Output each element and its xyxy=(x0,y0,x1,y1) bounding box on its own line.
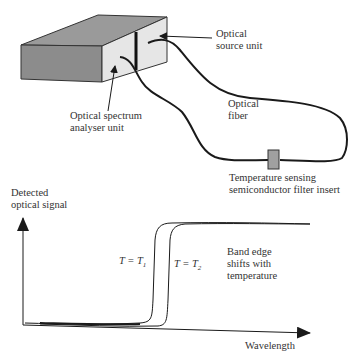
annotation-line3: temperature xyxy=(227,270,277,282)
fiber-label-line2: fiber xyxy=(228,110,259,122)
filter-label-line2: semiconductor filter insert xyxy=(229,184,340,196)
curve-t1-text: T = T xyxy=(119,255,143,266)
analyser-label-line2: analyser unit xyxy=(70,122,142,134)
annotation-line2: shifts with xyxy=(227,258,277,270)
ylabel-line2: optical signal xyxy=(11,199,67,211)
x-axis-label: Wavelength xyxy=(245,340,295,352)
instrument-box xyxy=(21,15,167,82)
filter-insert xyxy=(268,150,279,169)
annotation-line1: Band edge xyxy=(227,246,277,258)
filter-insert-label: Temperature sensing semiconductor filter… xyxy=(229,172,340,196)
curve-t1-subscript: 1 xyxy=(143,261,147,269)
analyser-unit-label: Optical spectrum analyser unit xyxy=(70,110,142,134)
filter-label-line1: Temperature sensing xyxy=(229,172,340,184)
source-label-line2: source unit xyxy=(216,40,262,52)
source-unit-label: Optical source unit xyxy=(216,28,262,52)
fiber-label-line1: Optical xyxy=(228,98,259,110)
y-axis-label: Detected optical signal xyxy=(11,187,67,211)
analyser-label-line1: Optical spectrum xyxy=(70,110,142,122)
source-pointer-arrow xyxy=(160,36,212,38)
curve-t2-label: T = T2 xyxy=(174,258,201,274)
diagram: Optical source unit Optical spectrum ana… xyxy=(0,0,358,360)
curve-t2-text: T = T xyxy=(174,258,198,269)
curve-t2-subscript: 2 xyxy=(198,264,202,272)
source-label-line1: Optical xyxy=(216,28,262,40)
x-axis xyxy=(23,325,310,333)
band-edge-annotation: Band edge shifts with temperature xyxy=(227,246,277,282)
fiber-label: Optical fiber xyxy=(228,98,259,122)
box-front-face xyxy=(21,45,102,82)
ylabel-line1: Detected xyxy=(11,187,67,199)
curve-t1-label: T = T1 xyxy=(119,255,146,271)
